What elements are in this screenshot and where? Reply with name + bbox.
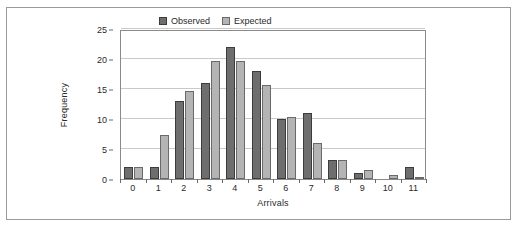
bar-expected-8 (338, 160, 347, 179)
x-tick-mark (146, 179, 147, 183)
y-tick-label: 5 (102, 145, 107, 155)
x-tick-label: 6 (283, 183, 288, 193)
legend-label: Observed (171, 16, 210, 26)
bar-group (150, 31, 169, 179)
bar-observed-7 (303, 113, 312, 179)
x-tick-label: 9 (360, 183, 365, 193)
y-tick-label: 10 (97, 115, 107, 125)
bar-chart: Frequency 0510152025 01234567891011 Arri… (7, 8, 512, 221)
x-tick-label: 7 (309, 183, 314, 193)
y-tick-mark (109, 180, 113, 181)
x-tick-mark (248, 179, 249, 183)
bar-expected-2 (185, 91, 194, 179)
chart-legend: ObservedExpected (159, 16, 272, 26)
x-tick-label: 5 (258, 183, 263, 193)
x-tick-label: 2 (181, 183, 186, 193)
bar-expected-10 (389, 175, 398, 179)
bar-observed-6 (277, 119, 286, 179)
bar-expected-0 (134, 167, 143, 179)
bar-observed-4 (226, 47, 235, 179)
y-tick-label: 25 (97, 25, 107, 35)
x-tick-mark (171, 179, 172, 183)
x-axis-title: Arrivals (120, 198, 426, 208)
bar-observed-8 (328, 160, 337, 179)
x-tick-mark (324, 179, 325, 183)
bar-expected-7 (313, 143, 322, 179)
bar-group (252, 31, 271, 179)
bar-expected-11 (415, 177, 424, 179)
x-tick-label: 1 (156, 183, 161, 193)
bar-group (354, 31, 373, 179)
y-tick-mark (109, 150, 113, 151)
bars-layer (121, 31, 425, 179)
y-tick-mark (109, 30, 113, 31)
y-tick-label: 20 (97, 55, 107, 65)
bar-observed-9 (354, 173, 363, 179)
legend-entry-expected: Expected (222, 16, 272, 26)
bar-group (405, 31, 424, 179)
x-tick-label: 4 (232, 183, 237, 193)
bar-group (124, 31, 143, 179)
y-tick-label: 0 (102, 175, 107, 185)
bar-expected-1 (160, 135, 169, 179)
x-tick-mark (426, 179, 427, 183)
x-tick-mark (222, 179, 223, 183)
bar-observed-2 (175, 101, 184, 179)
x-tick-mark (299, 179, 300, 183)
plot-area (120, 30, 426, 180)
x-tick-mark (197, 179, 198, 183)
x-axis-tick-labels: 01234567891011 (120, 183, 426, 197)
bar-group (328, 31, 347, 179)
x-tick-mark (375, 179, 376, 183)
bar-observed-0 (124, 167, 133, 179)
x-tick-mark (273, 179, 274, 183)
bar-expected-3 (211, 61, 220, 179)
y-axis-tick-labels: 0510152025 (80, 30, 113, 180)
x-tick-mark (350, 179, 351, 183)
y-tick-mark (109, 90, 113, 91)
legend-entry-observed: Observed (159, 16, 210, 26)
bar-expected-5 (262, 85, 271, 179)
y-tick-mark (109, 120, 113, 121)
bar-group (226, 31, 245, 179)
bar-observed-1 (150, 167, 159, 179)
y-tick-label: 15 (97, 85, 107, 95)
bar-group (175, 31, 194, 179)
bar-group (201, 31, 220, 179)
bar-group (379, 31, 398, 179)
x-tick-label: 0 (130, 183, 135, 193)
x-tick-label: 11 (409, 183, 418, 193)
legend-label: Expected (234, 16, 272, 26)
figure-frame: Frequency 0510152025 01234567891011 Arri… (6, 7, 511, 220)
y-tick-mark (109, 60, 113, 61)
x-tick-mark (401, 179, 402, 183)
y-axis-title: Frequency (59, 30, 73, 180)
bar-group (277, 31, 296, 179)
x-tick-mark (120, 179, 121, 183)
bar-observed-11 (405, 167, 414, 179)
bar-expected-4 (236, 61, 245, 179)
x-tick-label: 3 (207, 183, 212, 193)
x-tick-label: 8 (334, 183, 339, 193)
expected-swatch-icon (222, 17, 230, 25)
observed-swatch-icon (159, 17, 167, 25)
bar-observed-3 (201, 83, 210, 179)
bar-expected-9 (364, 170, 373, 179)
bar-observed-5 (252, 71, 261, 179)
gridline (121, 28, 425, 29)
bar-expected-6 (287, 117, 296, 179)
x-tick-label: 10 (383, 183, 393, 193)
bar-group (303, 31, 322, 179)
